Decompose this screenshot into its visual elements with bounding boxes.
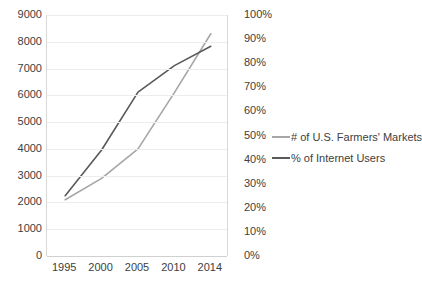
- x-axis-tick-label: 2010: [161, 262, 185, 273]
- y-axis-right-tick-label: 20%: [236, 202, 290, 213]
- y-axis-right-tick-label: 0%: [236, 250, 290, 261]
- y-axis-right-tick-label: 30%: [236, 178, 290, 189]
- x-axis-tick-label: 1995: [52, 262, 76, 273]
- legend-item-label: % of Internet Users: [291, 152, 385, 164]
- legend-item-label: # of U.S. Farmers' Markets: [291, 131, 422, 143]
- legend-item[interactable]: % of Internet Users: [272, 147, 414, 168]
- y-axis-right-tick-label: 80%: [236, 57, 290, 68]
- x-axis: 19952000200520102014: [46, 262, 228, 278]
- legend-item[interactable]: # of U.S. Farmers' Markets: [272, 126, 414, 147]
- y-axis-right-tick-label: 100%: [236, 9, 290, 20]
- gridline: [47, 256, 227, 257]
- x-axis-tick-label: 2005: [125, 262, 149, 273]
- gridline: [47, 122, 227, 123]
- gridline: [47, 15, 227, 16]
- gridline: [47, 149, 227, 150]
- y-axis-right-tick-label: 70%: [236, 81, 290, 92]
- y-axis-left-tick-label: 7000: [0, 63, 48, 74]
- chart-legend: # of U.S. Farmers' Markets% of Internet …: [272, 126, 414, 168]
- y-axis-left-tick-label: 2000: [0, 196, 48, 207]
- y-axis-left-tick-label: 0: [0, 250, 48, 261]
- x-axis-tick-label: 2014: [198, 262, 222, 273]
- gridline: [47, 42, 227, 43]
- legend-line-swatch: [272, 157, 290, 159]
- y-axis-right-tick-label: 60%: [236, 105, 290, 116]
- y-axis-left-tick-label: 1000: [0, 223, 48, 234]
- y-axis-right-tick-label: 10%: [236, 226, 290, 237]
- y-axis-left-tick-label: 8000: [0, 36, 48, 47]
- series-lines: [47, 15, 229, 256]
- legend-line-swatch: [272, 136, 290, 138]
- y-axis-left-tick-label: 6000: [0, 89, 48, 100]
- gridline: [47, 202, 227, 203]
- y-axis-left-tick-label: 3000: [0, 170, 48, 181]
- y-axis-right-tick-label: 90%: [236, 33, 290, 44]
- gridline: [47, 69, 227, 70]
- plot-area: [46, 15, 228, 256]
- y-axis-left-tick-label: 9000: [0, 9, 48, 20]
- y-axis-left: 9000800070006000500040003000200010000: [0, 0, 42, 281]
- y-axis-left-tick-label: 5000: [0, 116, 48, 127]
- y-axis-left-tick-label: 4000: [0, 143, 48, 154]
- gridline: [47, 176, 227, 177]
- gridline: [47, 95, 227, 96]
- gridline: [47, 229, 227, 230]
- x-axis-tick-label: 2000: [88, 262, 112, 273]
